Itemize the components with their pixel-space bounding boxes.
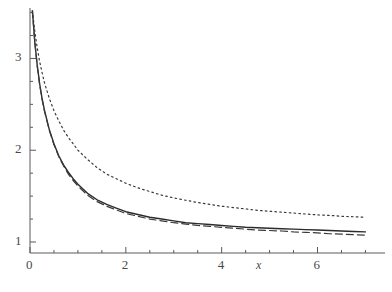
- x-tick-label: 2: [122, 257, 129, 273]
- solid-curve: [32, 11, 365, 232]
- y-tick-label: 3: [15, 49, 22, 65]
- x-axis-label: x: [256, 258, 261, 273]
- chart-figure: 0246 123 x: [0, 0, 392, 292]
- x-tick-label: 6: [314, 257, 321, 273]
- data-series-group: [32, 11, 365, 235]
- x-tick-label: 4: [218, 257, 225, 273]
- y-tick-label: 2: [15, 141, 22, 157]
- x-axis-ticks: [30, 247, 365, 253]
- plot-canvas: [0, 0, 392, 292]
- axis-lines: [30, 8, 385, 253]
- x-tick-label: 0: [26, 257, 33, 273]
- dashed-curve: [32, 11, 365, 235]
- dotted-curve: [32, 11, 365, 217]
- y-tick-label: 1: [15, 233, 22, 249]
